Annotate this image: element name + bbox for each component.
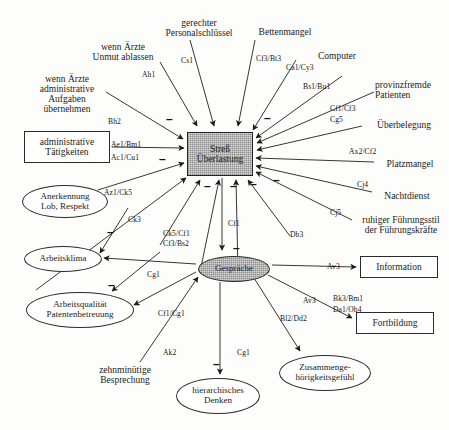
node-anerkennung[interactable]: Anerkennung Lob, Respekt xyxy=(22,185,108,218)
node-ueberbelegung: Überbelegung xyxy=(366,119,442,131)
edge-label-da1ob4: Da1/Ob4 xyxy=(333,305,362,314)
node-nachtdienst: Nachtdienst xyxy=(376,190,438,202)
node-fortbildung-label: Fortbildung xyxy=(373,318,418,328)
edge-label-ck5cf1: Ck5/Cf1 xyxy=(163,229,190,238)
node-hierarchisches-line2: Denken xyxy=(192,396,243,406)
node-ruhiger-fuehrungsstil: ruhiger Führungsstil der Führungskräfte xyxy=(353,213,449,237)
edge-label-bl2dd2: Bl2/Dd2 xyxy=(280,314,307,323)
edge-label-cg1-hier: Cg1 xyxy=(237,348,250,357)
polarity-sign-10: – xyxy=(233,242,240,254)
edge-label-cg5: Cg5 xyxy=(330,115,343,124)
node-aerzte-admin-line2: administrative xyxy=(40,84,94,94)
edge-label-db3: Db3 xyxy=(290,230,303,239)
node-gespraeche-label: Gespräche xyxy=(215,264,253,274)
edge-label-cf3bs2: Cf3/Bs2 xyxy=(163,239,189,248)
edge-label-ax2cf2: Ax2/Cf2 xyxy=(349,147,376,156)
node-administrative-taetigkeiten[interactable]: administrative Tätigkeiten xyxy=(24,131,110,163)
node-arbeitsklima[interactable]: Arbeitsklima xyxy=(24,246,102,272)
polarity-sign-4: – xyxy=(273,174,280,186)
edge-label-ck3: Ck3 xyxy=(128,215,141,224)
node-zehnminuetige-besprechung: zehnminütige Besprechung xyxy=(86,363,164,387)
node-aerzte-admin-line1: wenn Ärzte xyxy=(40,74,94,84)
node-ueberbelegung-label: Überbelegung xyxy=(377,120,431,130)
edge-label-cj4: Cj4 xyxy=(357,180,368,189)
node-gerechter-line1: gerechter xyxy=(165,18,232,28)
edge-label-bh2: Bh2 xyxy=(108,117,121,126)
edge-label-az1ck5: Az1/Ck5 xyxy=(104,188,132,197)
node-nachtdienst-label: Nachtdienst xyxy=(384,191,429,201)
node-aerzte-admin-line4: übernehmen xyxy=(40,104,94,114)
node-zusammengehoerig-line2: hörigkeitsgefühl xyxy=(296,373,355,383)
diagram-canvas: Streß Überlastung Gespräche administrati… xyxy=(0,0,449,430)
polarity-sign-8: – xyxy=(107,226,114,238)
node-stress-line2: Überlastung xyxy=(197,154,243,164)
edge-label-ac1cu1: Ac1/Cu1 xyxy=(111,153,139,162)
node-gerechter-line2: Personalschlüssel xyxy=(165,28,232,38)
node-stress[interactable]: Streß Überlastung xyxy=(187,132,253,176)
node-stress-line1: Streß xyxy=(197,144,243,154)
polarity-sign-9: – xyxy=(108,279,115,291)
edge-label-ca1cy3: Ca1/Cy3 xyxy=(286,63,314,72)
polarity-sign-7: – xyxy=(250,178,257,190)
edge-label-cj5: Cj5 xyxy=(330,208,341,217)
node-platzmangel: Platzmangel xyxy=(378,158,442,170)
node-provinzfremde-line2: Patienten xyxy=(375,90,431,100)
node-provinzfremde-line1: provinzfremde xyxy=(375,80,431,90)
edge-label-cf1cf3: Cf1/Cf3 xyxy=(330,104,356,113)
node-information-label: Information xyxy=(376,262,421,272)
node-bettenmangel-label: Bettenmangel xyxy=(259,27,312,37)
node-provinzfremde-patienten: provinzfremde Patienten xyxy=(375,78,449,102)
polarity-sign-6: – xyxy=(230,180,237,192)
edge-label-ae1bm1: Ae1/Bm1 xyxy=(111,140,141,149)
node-unmut-line2: Unmut ablassen xyxy=(93,52,154,62)
polarity-sign-11: – xyxy=(213,358,220,370)
node-computer-label: Computer xyxy=(318,51,356,61)
edge-label-av3-fort: Av3 xyxy=(303,296,316,305)
node-aerzte-admin-line3: Aufgaben xyxy=(40,94,94,104)
polarity-sign-2: – xyxy=(264,112,271,124)
node-gerechter-personalschluessel: gerechter Personalschlüssel xyxy=(150,16,248,40)
polarity-sign-3: – xyxy=(159,153,166,165)
node-fortbildung[interactable]: Fortbildung xyxy=(356,312,434,334)
node-zehnminuetige-line1: zehnminütige xyxy=(99,365,151,375)
edge-label-ah1: Ah1 xyxy=(142,70,155,79)
node-bettenmangel: Bettenmangel xyxy=(250,26,320,38)
node-arbeitsqualitaet[interactable]: Arbeitsqualität Patentenbetreuung xyxy=(26,292,134,328)
edge-label-bk3bm1: Bk3/Bm1 xyxy=(333,294,363,303)
node-hierarchisches-denken[interactable]: hierarchisches Denken xyxy=(176,378,260,414)
node-arbeitsklima-label: Arbeitsklima xyxy=(40,254,87,264)
node-arbeitsqualitaet-line2: Patentenbetreuung xyxy=(47,310,114,320)
node-computer: Computer xyxy=(311,50,363,62)
node-wenn-aerzte-unmut: wenn Ärzte Unmut ablassen xyxy=(79,40,167,64)
edge-label-ak2: Ak2 xyxy=(163,348,176,357)
node-zusammengehoerigkeitsgefuehl[interactable]: Zusammenge- hörigkeitsgefühl xyxy=(279,355,371,391)
node-ruhiger-line2: der Führungskräfte xyxy=(362,225,439,235)
node-zehnminuetige-line2: Besprechung xyxy=(99,375,151,385)
edge-label-cf3bt3: Cf3/Bt3 xyxy=(256,54,281,63)
node-wenn-aerzte-administrative: wenn Ärzte administrative Aufgaben übern… xyxy=(28,70,106,118)
node-anerkennung-line2: Lob, Respekt xyxy=(41,202,90,212)
edge-label-cg1-left: Cg1 xyxy=(147,270,160,279)
edge-label-cf1cg1: Cf1/Cg1 xyxy=(158,309,185,318)
polarity-sign-5: – xyxy=(204,180,211,192)
node-unmut-line1: wenn Ärzte xyxy=(93,42,154,52)
node-information[interactable]: Information xyxy=(360,256,438,278)
node-ruhiger-line1: ruhiger Führungsstil xyxy=(362,215,439,225)
polarity-sign-1: – xyxy=(166,113,173,125)
node-administrative-line2: Tätigkeiten xyxy=(40,147,94,157)
edge-label-cs1: Cs1 xyxy=(181,56,193,65)
node-platzmangel-label: Platzmangel xyxy=(387,159,434,169)
edge-label-bs1bu1: Bs1/Bu1 xyxy=(303,82,330,91)
edge-label-cf1-top: Cf1 xyxy=(228,219,240,228)
node-administrative-line1: administrative xyxy=(40,137,94,147)
node-gespraeche[interactable]: Gespräche xyxy=(198,256,270,282)
edge-label-av3-info: Av3 xyxy=(327,262,340,271)
